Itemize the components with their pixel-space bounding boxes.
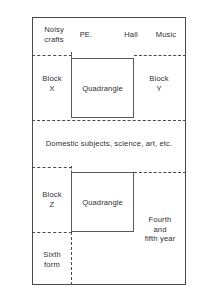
label-noisy-crafts: Noisy crafts: [36, 25, 72, 44]
quadrangle-bottom-label: Quadrangle: [72, 198, 133, 207]
partition-mid-lower-right: [134, 172, 186, 173]
label-music: Music: [149, 30, 183, 40]
label-domestic-subjects: Domestic subjects, science, art, etc.: [33, 139, 185, 149]
partition-top-right: [134, 55, 186, 56]
quadrangle-top-label: Quadrangle: [72, 84, 133, 93]
label-pe: PE.: [72, 30, 100, 40]
partition-mid-upper: [32, 120, 186, 121]
partition-top-left: [32, 55, 72, 56]
partition-sixth-form: [32, 232, 72, 233]
label-block-y: Block Y: [136, 74, 182, 93]
school-plan-diagram: Quadrangle Quadrangle Noisy crafts PE. H…: [0, 0, 198, 299]
partition-sixth-form-vertical: [71, 232, 72, 285]
quadrangle-bottom: Quadrangle: [71, 172, 134, 232]
quadrangle-top: Quadrangle: [71, 58, 134, 118]
partition-mid-lower-left: [32, 167, 72, 168]
label-block-z: Block Z: [33, 190, 71, 209]
label-sixth-form: Sixth form: [33, 250, 71, 269]
label-block-x: Block X: [33, 74, 71, 93]
label-hall: Hall: [117, 30, 145, 40]
label-fourth-fifth-year: Fourth and fifth year: [134, 215, 186, 244]
